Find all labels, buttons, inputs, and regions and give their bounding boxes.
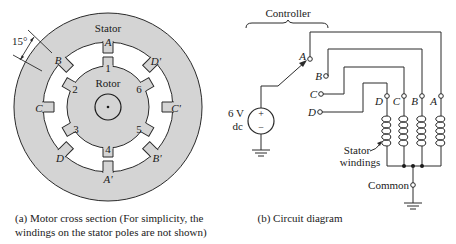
coil-C — [399, 98, 408, 166]
coil-B — [417, 98, 426, 166]
stator-pole-Cp: C' — [171, 102, 181, 114]
source-wire — [261, 62, 305, 108]
switch-label-B: B — [315, 70, 322, 82]
stator-pole-B: B — [55, 54, 62, 66]
switch-label-D: D — [307, 106, 316, 118]
winding-terminal-A — [439, 94, 444, 99]
wire-B — [328, 49, 422, 94]
coil-A — [436, 98, 445, 166]
winding-label-D: D — [374, 95, 383, 107]
junction-dot-1 — [402, 164, 406, 168]
rotor-pole-3: 3 — [73, 123, 79, 135]
switch-terminal-C — [319, 92, 324, 97]
rotor-pole-2: 2 — [72, 83, 78, 95]
switch-terminal-A — [308, 57, 313, 62]
windings-label-line1: Stator — [344, 144, 371, 156]
caption-b: (b) Circuit diagram — [258, 212, 343, 225]
angle-label: 15° — [12, 35, 27, 47]
stator-pole-C: C — [35, 102, 43, 114]
rotor-pole-4: 4 — [105, 143, 111, 155]
stepper-motor-figure: Stator Rotor A D' C' B' A' D C B 1 6 5 4… — [0, 0, 456, 244]
windings-label-line2: windings — [340, 156, 380, 168]
winding-terminal-D — [385, 94, 390, 99]
stator-label: Stator — [95, 22, 122, 34]
winding-terminal-C — [402, 94, 407, 99]
common-label: Common — [368, 179, 409, 191]
rotor-pole-6: 6 — [136, 83, 142, 95]
wire-A — [310, 32, 441, 94]
stator-pole-Bp: B' — [152, 152, 162, 164]
common-ground-icon — [404, 203, 422, 209]
coil-D — [382, 98, 391, 166]
shaft-center-dot — [107, 106, 110, 109]
switch-terminal-D — [318, 110, 323, 115]
controller-label: Controller — [265, 7, 311, 19]
source-type-label: dc — [233, 120, 244, 132]
switch-label-A: A — [298, 50, 306, 62]
source-voltage-label: 6 V — [228, 107, 244, 119]
rotor-pole-5: 5 — [136, 123, 142, 135]
winding-label-B: B — [411, 95, 418, 107]
caption-a-line2: windings on the stator poles are not sho… — [15, 226, 207, 239]
winding-label-C: C — [393, 95, 401, 107]
junction-dot-3 — [420, 164, 424, 168]
winding-label-A: A — [429, 95, 437, 107]
switch-label-C: C — [310, 88, 318, 100]
source-minus: − — [258, 122, 264, 133]
common-terminal — [411, 183, 416, 188]
winding-terminal-B — [420, 94, 425, 99]
stator-pole-Dp: D' — [150, 55, 162, 67]
circuit-diagram: Controller + − 6 V dc A B C D — [228, 7, 445, 225]
rotor-pole-1: 1 — [105, 62, 111, 74]
source-ground-icon — [252, 150, 270, 156]
controller-brace — [246, 20, 328, 28]
source-plus: + — [258, 108, 264, 119]
stator-windings — [382, 98, 445, 166]
stator-pole-Ap: A' — [102, 173, 113, 185]
rotor-label: Rotor — [95, 77, 120, 89]
caption-a-line1: (a) Motor cross section (For simplicity,… — [15, 212, 204, 225]
stator-pole-A: A — [104, 36, 112, 48]
stator-pole-D: D — [55, 152, 64, 164]
